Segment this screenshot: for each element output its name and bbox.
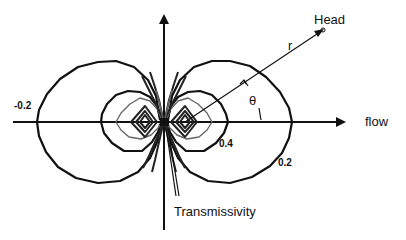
head-label: Head bbox=[314, 12, 345, 27]
theta-label: θ bbox=[249, 93, 256, 108]
center-singularity bbox=[160, 118, 169, 126]
head-arrowhead-icon bbox=[314, 29, 324, 37]
flow-label: flow bbox=[365, 114, 389, 129]
vertical-axis-arrowhead-icon bbox=[159, 14, 169, 24]
flow-axis-arrowhead-icon bbox=[336, 117, 346, 127]
r-label: r bbox=[288, 38, 293, 53]
transmissivity-label: Transmissivity bbox=[174, 204, 256, 219]
contour-label-left-outer: -0.2 bbox=[14, 100, 32, 111]
contour-label-right-inner: 0.4 bbox=[219, 138, 233, 149]
contour-label-right-outer: 0.2 bbox=[278, 157, 292, 168]
diagram-canvas: Head r θ flow Transmissivity -0.2 0.4 0.… bbox=[0, 0, 406, 240]
